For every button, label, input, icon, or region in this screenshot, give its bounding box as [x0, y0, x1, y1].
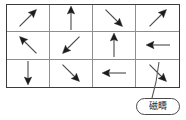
domain-cell-r3c3: [93, 60, 136, 87]
callout-bubble: 磁疇: [136, 98, 180, 115]
domain-cell-r2c3: [93, 32, 136, 59]
arrow-southeast-icon: [139, 55, 176, 92]
arrow-northwest-icon: [10, 27, 47, 64]
arrow-north-icon: [101, 32, 127, 58]
arrow-south-icon: [15, 60, 41, 86]
arrow-west-icon: [101, 60, 127, 86]
domain-grid: [6, 4, 180, 88]
domain-cell-r1c3: [93, 5, 136, 32]
arrow-southeast-icon: [53, 55, 90, 92]
domain-cell-r2c1: [7, 32, 50, 59]
magnetic-domain-figure: 磁疇: [0, 0, 186, 120]
domain-cell-r3c1: [7, 60, 50, 87]
callout-label: 磁疇: [149, 102, 168, 111]
domain-cell-r3c2: [50, 60, 93, 87]
domain-cell-r1c4: [136, 5, 179, 32]
domain-cell-r3c4: [136, 60, 179, 87]
